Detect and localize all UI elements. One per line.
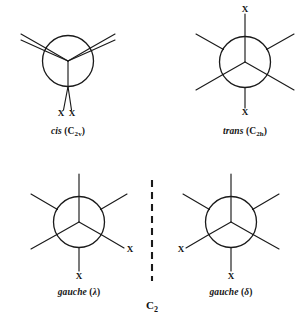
structure-cis [21,34,115,110]
structure-gauche-delta [183,174,279,271]
caption-cis: cis (C2v) [14,126,122,136]
caption-gauche-delta: gauche (δ) [177,287,285,297]
caption-gl-name: gauche [58,287,87,297]
caption-cis-name: cis [51,126,62,136]
caption-trans-pg-open: (C [244,126,257,136]
caption-trans: trans (C2h) [191,126,299,136]
caption-cis-pg-open: (C [62,126,75,136]
structure-gauche-lambda [31,174,127,271]
structure-trans [196,14,294,108]
bond-gl-front-lower-right [79,222,101,235]
newman-projections-drawing [0,0,302,322]
bond-trans-rear-upper-right [267,34,295,50]
atom-label-gauche-delta-x-left: X [175,244,187,254]
caption-gauche-lambda: gauche (λ) [25,287,133,297]
bond-trans-ext-lower-right [267,75,294,91]
bond-cis-rear-upper-left [47,52,69,62]
bond-cis-ext-down-b [68,87,72,111]
bond-trans-front-lower-left [223,62,245,75]
overall-point-group-sub: 2 [154,305,158,314]
bond-gl-front-lower-left [57,222,79,235]
overall-point-group-letter: C [146,299,154,311]
bond-trans-rear-upper-left [196,34,224,50]
caption-trans-pg-sub: 2h [256,130,264,138]
bond-gl-ext-lower-left [31,235,57,250]
bond-gl-rear-upper-left [31,194,58,210]
atom-label-trans-x-top: X [239,4,251,14]
bond-gd-ext-lower-right [253,235,279,250]
bond-cis-ext-down-a [64,87,69,111]
atom-label-cis-x2: X [66,108,78,118]
bond-trans-front-lower-right [245,62,267,75]
caption-trans-pg-close: ) [264,126,267,136]
figure-canvas: X X X X X X X X cis (C2v) trans (C2h) ga… [0,0,302,322]
caption-cis-pg-sub: 2v [75,130,82,138]
caption-gd-pg-close: ) [249,287,252,297]
caption-gd-name: gauche [209,287,238,297]
atom-label-gauche-delta-x-bottom: X [225,271,237,281]
bond-cis-rear-upper-right [68,52,90,62]
atom-label-gauche-lambda-x-bottom: X [73,271,85,281]
atom-label-gauche-lambda-x-right: X [124,244,136,254]
caption-gl-pg-close: ) [97,287,100,297]
caption-cis-pg-close: ) [82,126,85,136]
bond-gd-front-lower-left [209,222,231,235]
bond-gd-ext-lower-left [186,235,209,249]
bond-trans-ext-lower-left [196,75,223,91]
atom-label-trans-x-bottom: X [239,107,251,117]
bond-gl-rear-upper-right [101,194,128,210]
overall-point-group-label: C2 [124,299,180,311]
caption-trans-name: trans [223,126,244,136]
bond-gd-front-lower-right [231,222,253,235]
bond-gd-rear-upper-left [183,194,210,210]
bond-gl-ext-lower-right [101,235,124,249]
bond-gd-rear-upper-right [253,194,280,210]
